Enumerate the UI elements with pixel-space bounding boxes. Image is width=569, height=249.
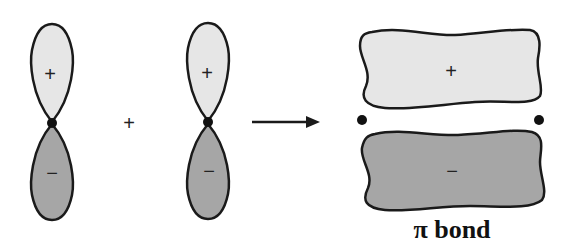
left-negative-sign: − [46, 163, 58, 183]
left-positive-sign: + [44, 64, 56, 84]
pi-right-nucleus [534, 115, 544, 125]
left-p-orbital [31, 24, 73, 220]
pi-bond-result [357, 30, 544, 211]
right-nucleus [203, 117, 213, 127]
pi-bond-label: π bond [413, 215, 490, 245]
diagram-graphics [0, 0, 569, 249]
pi-bond-diagram: + − + + − + − π bond [0, 0, 569, 249]
pi-negative-sign: − [446, 161, 458, 181]
right-negative-sign: − [203, 161, 215, 181]
right-positive-sign: + [201, 63, 213, 83]
plus-operator: + [123, 113, 135, 133]
reaction-arrow [252, 116, 320, 128]
right-p-orbital [187, 23, 229, 219]
pi-left-nucleus [357, 115, 367, 125]
pi-positive-sign: + [445, 61, 457, 81]
left-nucleus [47, 118, 57, 128]
